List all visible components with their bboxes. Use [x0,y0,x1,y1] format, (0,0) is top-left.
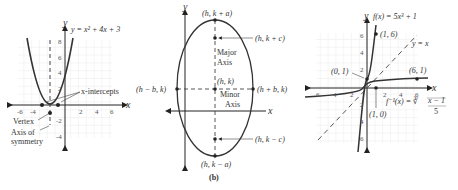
x-tick: 6 [415,91,419,99]
point-label: (1, 6) [380,30,398,39]
figure-canvas: y x y = x² + 4x + 3 -6 -4 2 4 6 8 6 4 2 … [0,0,458,190]
axis-of-symmetry-label-2: symmetry [11,137,43,146]
panel-c-inverse-functions: y x f(x) = 5x³ + 1 (1, 6) y = x (0, 1) (… [305,10,446,152]
vertex-point [213,154,217,158]
vertex-label: Vertex [13,117,34,126]
point-label: (1, 0) [369,110,387,119]
panel-b-ellipse: y x (h, k + a) (h, k + c) Major Axis (h,… [136,1,288,182]
center-point [213,87,217,91]
x-tick: 4 [333,91,337,99]
major-axis-label-1: Major [217,48,237,57]
y-axis-label: y [62,17,68,28]
panel-a-parabola: y x y = x² + 4x + 3 -6 -4 2 4 6 8 6 4 2 … [10,17,131,148]
x-intercept-point [56,103,60,107]
point-label: (0, 1) [331,67,349,76]
covertex-point [251,87,255,91]
vertex-point [48,111,52,115]
point [374,32,378,36]
point [415,77,419,81]
bottom-focus-label: (h, k − c) [255,135,285,144]
inverse-denominator: 5 [434,107,438,116]
top-focus-label: (h, k + c) [255,34,285,43]
y-axis-label: y [182,1,188,12]
x-tick: 4 [95,108,99,116]
x-tick: 2 [383,91,387,99]
x-axis-label: x [431,82,437,93]
right-covertex-label: (h + b, k) [257,85,288,94]
vertex-point [213,18,217,22]
y-tick: 6 [58,54,62,62]
minor-axis-label-2: Axis [225,100,240,109]
y-tick: -4 [56,133,62,141]
x-axis-label: x [125,99,131,110]
left-covertex-label: (h − b, k) [136,85,167,94]
equation-label: y = x² + 4x + 3 [70,25,120,34]
y-tick: 4 [360,118,364,126]
point [374,86,378,90]
top-vertex-label: (h, k + a) [202,9,233,18]
bottom-vertex-label: (h, k − a) [201,160,232,169]
y-tick: 2 [58,85,62,93]
point-label: (6, 1) [409,66,427,75]
x-intercept-point [40,103,44,107]
center-label: (h, k) [217,77,234,86]
x-intercepts-label: x-intercepts [81,87,119,96]
x-tick: -4 [30,108,36,116]
x-tick: 6 [316,91,320,99]
panel-caption: (b) [209,173,219,182]
point [365,77,369,81]
x-tick: 2 [350,91,354,99]
axis-of-symmetry-label-1: Axis of [11,128,35,137]
y-axis-label: y [363,10,369,21]
y-tick: 4 [58,69,62,77]
y-tick: 4 [360,49,364,57]
x-axis-label: x [267,105,273,116]
inverse-numerator: x − 1 [427,96,445,105]
identity-label: y = x [411,39,429,48]
focus-point [213,137,217,141]
y-tick: 8 [58,38,62,46]
y-tick: 6 [360,32,364,40]
focus-point [213,36,217,40]
minor-axis-label-1: Minor [220,90,240,99]
x-tick: 2 [79,108,83,116]
x-tick: 4 [399,91,403,99]
y-tick: 2 [360,66,364,74]
x-tick: -6 [17,108,23,116]
y-tick: 2 [360,101,364,109]
y-tick: 6 [360,135,364,143]
x-tick: 6 [110,108,114,116]
function-label: f(x) = 5x³ + 1 [373,12,417,21]
covertex-point [175,87,179,91]
y-tick: -2 [56,117,62,125]
major-axis-label-2: Axis [217,58,232,67]
